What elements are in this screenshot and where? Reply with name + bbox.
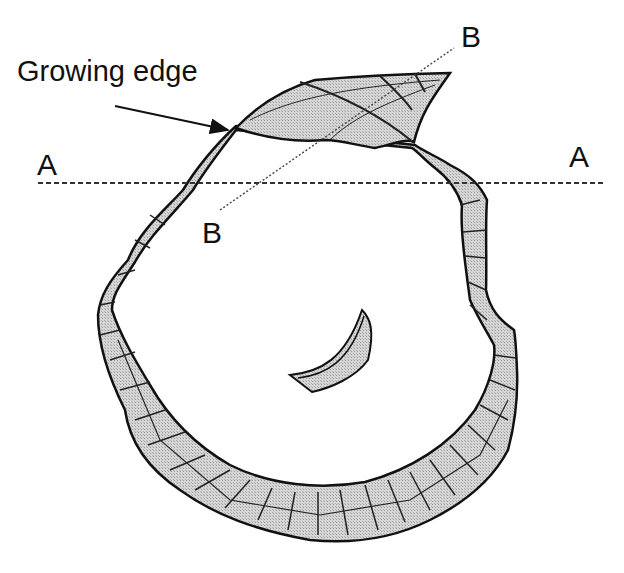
label-b-upper: B — [461, 22, 481, 52]
label-a-left: A — [37, 150, 57, 180]
growing-edge-arrow — [115, 106, 228, 130]
shell-ring — [98, 126, 517, 541]
growing-edge-label: Growing edge — [17, 57, 198, 86]
muscle-scar — [290, 310, 371, 392]
label-a-right: A — [569, 142, 589, 172]
label-b-lower: B — [202, 218, 222, 248]
growing-lip — [236, 73, 450, 148]
